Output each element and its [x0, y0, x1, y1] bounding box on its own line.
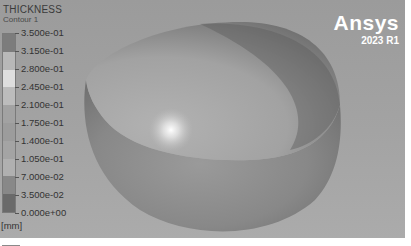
legend-unit: [mm] — [1, 220, 22, 231]
legend-tick-label: 3.500e-02 — [21, 190, 64, 200]
brand-name: Ansys — [333, 12, 399, 34]
legend-tick-label: 3.500e-01 — [21, 28, 64, 38]
ansys-logo: Ansys 2023 R1 — [333, 12, 399, 47]
legend-tick-label: 1.750e-01 — [21, 118, 64, 128]
graphics-viewport[interactable]: THICKNESS Contour 1 3.500e-013.150e-012.… — [0, 0, 405, 238]
color-band — [3, 87, 15, 105]
legend-tick-label: 1.400e-01 — [21, 136, 64, 146]
contour-legend: THICKNESS Contour 1 — [3, 5, 113, 24]
legend-title: THICKNESS — [3, 5, 113, 15]
legend-tick-label: 2.800e-01 — [21, 64, 64, 74]
legend-tick-label: 0.000e+00 — [21, 208, 66, 218]
color-band — [3, 52, 15, 70]
legend-tick-label: 2.100e-01 — [21, 100, 64, 110]
color-bar — [2, 33, 16, 213]
legend-tick-label: 1.050e-01 — [21, 154, 64, 164]
legend-tick-label: 2.450e-01 — [21, 82, 64, 92]
figure-caption-cropped — [2, 240, 202, 246]
color-band — [3, 159, 15, 177]
color-band — [3, 176, 15, 194]
color-band — [3, 194, 15, 212]
specular-highlight — [149, 108, 193, 152]
color-band — [3, 141, 15, 159]
brand-version: 2023 R1 — [333, 35, 399, 47]
color-band — [3, 105, 15, 123]
color-band — [3, 34, 15, 52]
color-band — [3, 123, 15, 141]
legend-tick-label: 3.150e-01 — [21, 46, 64, 56]
color-band — [3, 70, 15, 88]
legend-subtitle: Contour 1 — [3, 15, 113, 24]
legend-tick-label: 7.000e-02 — [21, 172, 64, 182]
